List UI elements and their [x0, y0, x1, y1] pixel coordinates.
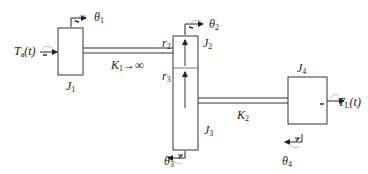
j1-label: J1 — [66, 80, 75, 96]
inertia-j4 — [288, 77, 327, 124]
theta4-label: θ4 — [282, 155, 292, 171]
input-torque-arrow-icon — [40, 46, 57, 55]
j4-label: J4 — [297, 62, 306, 78]
k2-label: K2 — [237, 109, 249, 125]
r2-label: r2 — [162, 37, 171, 53]
k1-label: K1→∞ — [111, 59, 144, 75]
theta2-label: θ2 — [209, 18, 219, 34]
gear-train-diagram — [0, 0, 368, 174]
j2-label: J2 — [203, 37, 212, 53]
theta4-arrow-icon — [285, 134, 302, 148]
shaft-k1 — [83, 48, 173, 53]
r3-label: r3 — [162, 70, 171, 86]
j3-label: J3 — [204, 124, 213, 140]
theta1-arrow-icon — [71, 16, 86, 27]
input-torque-label: Ta(t) — [14, 45, 36, 61]
theta1-label: θ1 — [94, 11, 104, 27]
inertia-j1 — [58, 28, 83, 75]
load-torque-label: TL(t) — [338, 96, 361, 112]
gear-j2-j3 — [173, 36, 198, 150]
theta3-label: θ3 — [164, 155, 174, 171]
theta2-arrow-icon — [185, 20, 203, 35]
shaft-k2 — [198, 98, 288, 103]
